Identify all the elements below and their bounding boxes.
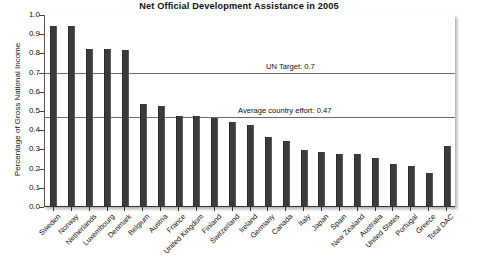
- chart-figure: Net Official Development Assistance in 2…: [0, 0, 478, 277]
- y-axis-tick-label: 0.1: [6, 184, 40, 192]
- x-axis-tick-mark: [339, 207, 340, 211]
- x-axis-tick-mark: [375, 207, 376, 211]
- y-axis-tick-label: 0.8: [6, 49, 40, 57]
- bar: [372, 158, 379, 206]
- bar: [336, 154, 343, 206]
- x-axis-tick-mark: [250, 207, 251, 211]
- reference-line-label: Average country effort: 0.47: [238, 106, 331, 115]
- bar: [318, 152, 325, 206]
- bar: [193, 116, 200, 206]
- x-axis-tick-label: Sweden: [37, 212, 62, 237]
- x-axis-tick-mark: [267, 207, 268, 211]
- x-axis-tick-mark: [428, 207, 429, 211]
- reference-line-label: UN Target: 0.7: [266, 62, 315, 71]
- x-axis-tick-mark: [446, 207, 447, 211]
- bar: [426, 173, 433, 206]
- bar: [408, 166, 415, 206]
- x-axis-tick-mark: [71, 207, 72, 211]
- bar: [390, 164, 397, 206]
- x-axis-tick-mark: [89, 207, 90, 211]
- bar: [247, 125, 254, 206]
- x-axis-tick-mark: [410, 207, 411, 211]
- bar: [158, 106, 165, 206]
- x-axis-tick-mark: [178, 207, 179, 211]
- bar: [68, 26, 75, 206]
- y-axis-tick-label: 0.4: [6, 126, 40, 134]
- bar: [176, 116, 183, 206]
- x-axis-tick-mark: [160, 207, 161, 211]
- y-axis-tick-label: 0.0: [6, 203, 40, 211]
- chart-title: Net Official Development Assistance in 2…: [0, 1, 478, 11]
- bar: [354, 154, 361, 206]
- x-axis-tick-mark: [142, 207, 143, 211]
- bar: [140, 104, 147, 206]
- y-axis-tick-label: 0.3: [6, 145, 40, 153]
- bar: [122, 50, 129, 206]
- bar: [444, 146, 451, 206]
- x-axis-tick-mark: [196, 207, 197, 211]
- y-axis-tick-label: 0.7: [6, 69, 40, 77]
- y-axis-tick-label: 0.6: [6, 88, 40, 96]
- y-axis-tick-label: 0.9: [6, 30, 40, 38]
- y-axis-tick-label: 1.0: [6, 11, 40, 19]
- bar: [265, 137, 272, 206]
- plot-area: UN Target: 0.7Average country effort: 0.…: [44, 15, 455, 207]
- y-axis-tick-mark: [39, 207, 44, 208]
- x-axis-tick-mark: [285, 207, 286, 211]
- x-axis-tick-mark: [53, 207, 54, 211]
- x-axis-tick-mark: [232, 207, 233, 211]
- bar: [50, 26, 57, 206]
- x-axis-tick-mark: [214, 207, 215, 211]
- x-axis-tick-mark: [107, 207, 108, 211]
- bar: [86, 49, 93, 206]
- x-axis-tick-mark: [321, 207, 322, 211]
- plot-inner: UN Target: 0.7Average country effort: 0.…: [45, 15, 455, 206]
- bar: [104, 49, 111, 206]
- x-axis-tick-mark: [124, 207, 125, 211]
- bar: [301, 150, 308, 206]
- bar: [211, 118, 218, 206]
- x-axis-tick-mark: [303, 207, 304, 211]
- x-axis-tick-label: Japan: [310, 212, 331, 233]
- y-axis-tick-label: 0.5: [6, 107, 40, 115]
- x-axis-tick-mark: [357, 207, 358, 211]
- x-axis-tick-label: Austria: [147, 212, 170, 235]
- bar: [229, 122, 236, 206]
- x-axis-tick-mark: [392, 207, 393, 211]
- y-axis-tick-label: 0.2: [6, 165, 40, 173]
- bar: [283, 141, 290, 206]
